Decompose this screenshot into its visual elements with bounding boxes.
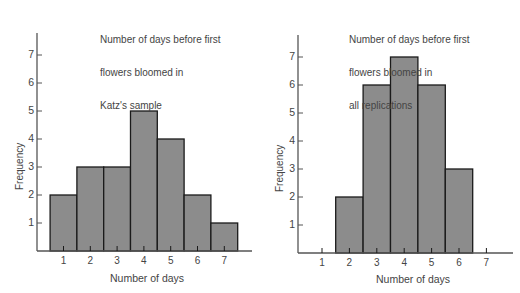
- x-tick-label: 3: [111, 255, 123, 266]
- histogram-bar: [104, 167, 131, 251]
- y-tick-label: 4: [24, 132, 34, 144]
- histogram-bar: [336, 197, 363, 253]
- x-tick-label: 7: [480, 257, 492, 268]
- y-tick-label: 1: [24, 216, 34, 228]
- x-tick-label: 2: [84, 255, 96, 266]
- x-tick-label: 5: [426, 257, 438, 268]
- x-tick-label: 2: [343, 257, 355, 268]
- x-axis-label: Number of days: [110, 272, 184, 284]
- x-tick-label: 1: [316, 257, 328, 268]
- x-tick-label: 3: [371, 257, 383, 268]
- histogram-bar: [157, 139, 184, 251]
- y-tick-label: 3: [24, 160, 34, 172]
- x-tick-label: 4: [398, 257, 410, 268]
- chart-title-line: all replications: [349, 100, 470, 111]
- y-tick-label: 5: [24, 104, 34, 116]
- y-tick-label: 3: [285, 162, 295, 174]
- y-tick-label: 1: [285, 218, 295, 230]
- y-tick-label: 2: [285, 190, 295, 202]
- histogram-bar: [445, 169, 472, 253]
- chart-title: Number of days before first flowers bloo…: [100, 12, 221, 133]
- chart-title: Number of days before first flowers bloo…: [349, 12, 470, 133]
- chart-title-line: flowers bloomed in: [349, 67, 470, 78]
- histogram-bar: [50, 195, 77, 251]
- chart-title-line: flowers bloomed in: [100, 67, 221, 78]
- x-axis-label: Number of days: [376, 273, 450, 285]
- y-tick-label: 6: [24, 76, 34, 88]
- histogram-all-replications: Number of days before first flowers bloo…: [260, 0, 520, 293]
- x-tick-label: 1: [58, 255, 70, 266]
- y-tick-label: 4: [285, 134, 295, 146]
- y-tick-label: 2: [24, 188, 34, 200]
- histogram-bar: [184, 195, 211, 251]
- histogram-katz-sample: Number of days before first flowers bloo…: [0, 0, 260, 293]
- y-tick-label: 6: [285, 78, 295, 90]
- x-tick-label: 6: [192, 255, 204, 266]
- x-tick-label: 7: [218, 255, 230, 266]
- y-axis-label: Frequency: [274, 145, 285, 192]
- chart-title-line: Katz's sample: [100, 100, 221, 111]
- y-tick-label: 5: [285, 106, 295, 118]
- histogram-bar: [77, 167, 104, 251]
- x-tick-label: 6: [453, 257, 465, 268]
- chart-title-line: Number of days before first: [100, 34, 221, 45]
- x-tick-label: 4: [138, 255, 150, 266]
- y-tick-label: 7: [24, 48, 34, 60]
- x-tick-label: 5: [165, 255, 177, 266]
- chart-title-line: Number of days before first: [349, 34, 470, 45]
- y-tick-label: 7: [285, 50, 295, 62]
